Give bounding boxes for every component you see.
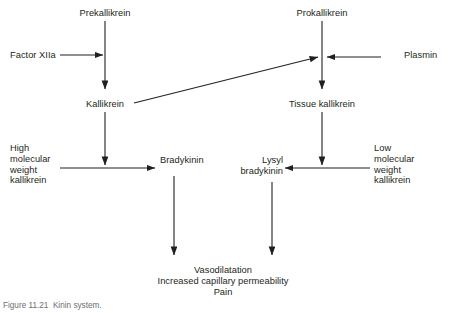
kinin-system-diagram: Prekallikrein Factor XIIa Kallikrein Hig… (0, 0, 455, 313)
node-outcomes: Vasodilatation Increased capillary perme… (158, 265, 289, 297)
node-prokallikrein: Prokallikrein (297, 8, 348, 19)
node-plasmin: Plasmin (404, 50, 437, 61)
figure-caption: Figure 11.21 Kinin system. (3, 301, 102, 311)
node-bradykinin: Bradykinin (160, 155, 204, 166)
node-high-molecular-weight-kallikrein: High molecular weight kallikrein (10, 143, 50, 186)
node-kallikrein: Kallikrein (86, 99, 124, 110)
edge-kallikrein-to-prokallikrein-axis (134, 57, 318, 103)
node-lysyl-bradykinin: Lysyl bradykinin (240, 155, 283, 177)
node-tissue-kallikrein: Tissue kallikrein (289, 99, 355, 110)
node-prekallikrein: Prekallikrein (80, 8, 131, 19)
node-factor-xiia: Factor XIIa (10, 50, 56, 61)
node-low-molecular-weight-kallikrein: Low molecular weight kallikrein (374, 143, 414, 186)
